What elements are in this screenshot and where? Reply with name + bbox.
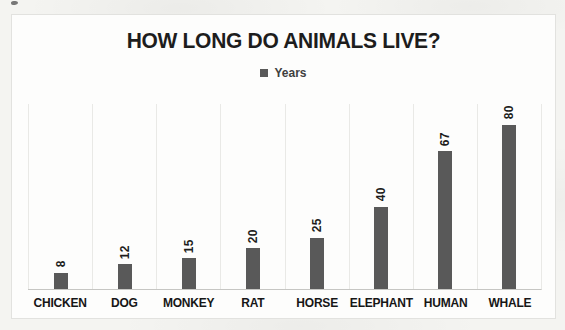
legend-label: Years <box>274 66 306 80</box>
bar <box>310 238 324 289</box>
category-label: HORSE <box>285 291 349 315</box>
bar-value-label: 40 <box>374 187 388 201</box>
category-slot: 20 <box>220 104 284 289</box>
scan-artifact <box>11 1 18 6</box>
category-slot: 15 <box>156 104 220 289</box>
plot-area: 812152025406780 <box>28 104 542 290</box>
bar-value-label: 8 <box>54 260 68 267</box>
bar <box>502 125 516 289</box>
bar-value-label: 20 <box>246 229 260 243</box>
category-label: CHICKEN <box>28 291 92 315</box>
bar-value-label: 25 <box>310 218 324 232</box>
bar <box>438 151 452 289</box>
category-label: DOG <box>92 291 156 315</box>
category-label: ELEPHANT <box>349 291 413 315</box>
bar <box>54 273 68 289</box>
category-label: HUMAN <box>414 291 478 315</box>
bar <box>182 258 196 289</box>
bar <box>118 264 132 289</box>
category-slot: 25 <box>285 104 349 289</box>
bar <box>374 207 388 289</box>
category-slot: 12 <box>92 104 156 289</box>
chart-title: HOW LONG DO ANIMALS LIVE? <box>12 27 555 53</box>
bar-chart: HOW LONG DO ANIMALS LIVE? Years 81215202… <box>11 14 556 319</box>
category-slot: 67 <box>413 104 477 289</box>
category-slot: 80 <box>477 104 541 289</box>
bar-value-label: 12 <box>118 245 132 259</box>
chart-legend: Years <box>12 67 555 79</box>
category-slot: 8 <box>28 104 92 289</box>
bar-value-label: 67 <box>438 132 452 146</box>
category-label: MONKEY <box>157 291 221 315</box>
category-label: WHALE <box>478 291 542 315</box>
category-slot: 40 <box>349 104 413 289</box>
bar <box>246 248 260 289</box>
category-axis: CHICKENDOGMONKEYRATHORSEELEPHANTHUMANWHA… <box>28 291 542 315</box>
bar-value-label: 15 <box>182 239 196 253</box>
category-label: RAT <box>221 291 285 315</box>
legend-swatch-icon <box>260 69 268 77</box>
bar-value-label: 80 <box>502 105 516 119</box>
